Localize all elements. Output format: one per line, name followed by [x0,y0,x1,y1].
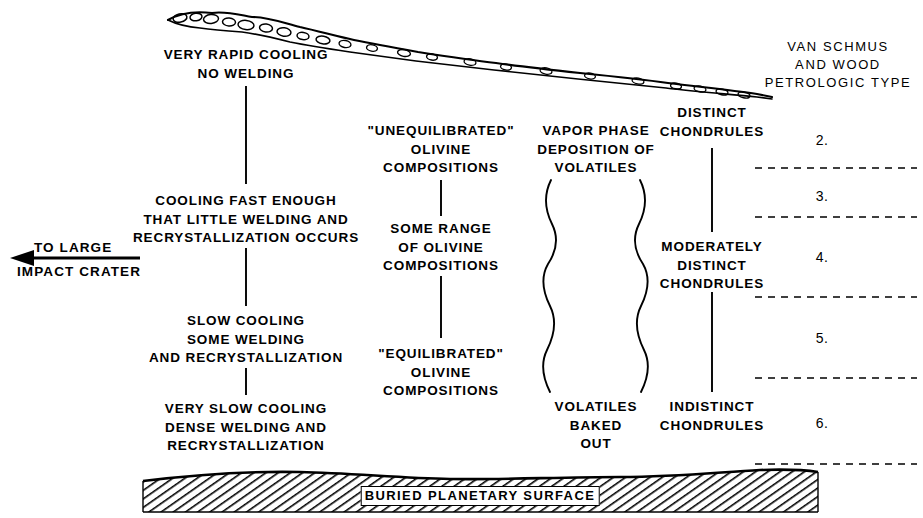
chondrules-item-distinct: DISTINCT CHONDRULES [660,104,764,141]
volatiles-bottom-label: VOLATILES BAKED OUT [555,398,638,454]
cooling-item-cooling-fast-enough: COOLING FAST ENOUGH THAT LITTLE WELDING … [133,192,359,248]
impact-arrow-label-top: TO LARGE [34,240,112,255]
chondrules-item-moderately-distinct: MODERATELY DISTINCT CHONDRULES [660,238,764,294]
cooling-item-very-slow-cooling: VERY SLOW COOLING DENSE WELDING AND RECR… [165,400,327,456]
petrologic-type-2: 2. [816,132,829,148]
cooling-item-very-rapid-cooling: VERY RAPID COOLING NO WELDING [164,46,329,83]
chondrules-item-indistinct: INDISTINCT CHONDRULES [660,398,764,435]
cooling-item-slow-cooling: SLOW COOLING SOME WELDING AND RECRYSTALL… [149,312,343,368]
olivine-item-some-range: SOME RANGE OF OLIVINE COMPOSITIONS [383,220,499,276]
petrologic-type-4: 4. [816,249,829,265]
buried-planetary-surface-label: BURIED PLANETARY SURFACE [361,486,600,506]
petrologic-type-3: 3. [816,188,829,204]
petrologic-type-6: 6. [816,415,829,431]
volatiles-wavy-channel [543,180,648,392]
impact-arrow-label-bottom: IMPACT CRATER [17,264,141,279]
petrologic-type-heading: VAN SCHMUS AND WOOD PETROLOGIC TYPE [765,38,912,92]
olivine-item-equilibrated: "EQUILIBRATED" OLIVINE COMPOSITIONS [378,345,504,401]
volatiles-top-label: VAPOR PHASE DEPOSITION OF VOLATILES [537,122,654,178]
petrologic-type-diagram: VERY RAPID COOLING NO WELDING COOLING FA… [0,0,923,518]
petrologic-type-5: 5. [816,330,829,346]
petrologic-type-boundaries [755,168,917,464]
olivine-item-unequilibrated: "UNEQUILIBRATED" OLIVINE COMPOSITIONS [368,122,515,178]
